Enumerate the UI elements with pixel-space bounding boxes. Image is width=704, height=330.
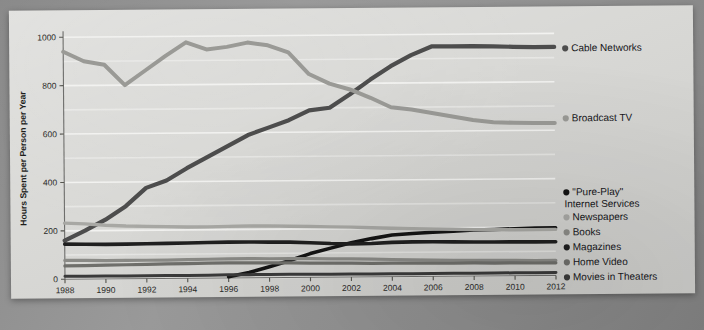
svg-text:2012: 2012	[547, 281, 566, 291]
x-axis: 1988199019921994199619982000200220042006…	[56, 275, 566, 295]
legend-marker	[564, 274, 570, 280]
legend-label: "Pure-Play"	[572, 186, 624, 197]
svg-text:2006: 2006	[424, 282, 443, 292]
series-line	[65, 240, 556, 247]
svg-text:1996: 1996	[219, 284, 238, 294]
svg-text:2000: 2000	[301, 283, 320, 293]
legend-marker	[564, 229, 570, 235]
legend-marker	[564, 244, 570, 250]
svg-text:0: 0	[53, 274, 58, 284]
svg-text:1988: 1988	[56, 285, 75, 295]
svg-text:1994: 1994	[178, 284, 197, 294]
legend-label: Newspapers	[572, 211, 628, 222]
legend-label: Broadcast TV	[572, 112, 633, 123]
svg-text:1992: 1992	[137, 285, 156, 295]
svg-text:1000: 1000	[37, 32, 56, 42]
svg-text:400: 400	[43, 178, 58, 188]
y-axis: 02004006008001000	[37, 31, 65, 284]
legend-marker	[562, 45, 568, 51]
svg-text:Hours Spent per Person per Yea: Hours Spent per Person per Year	[18, 91, 29, 226]
svg-text:1990: 1990	[96, 285, 115, 295]
legend-label: Magazines	[573, 241, 621, 252]
legend-marker	[563, 214, 569, 220]
legend-marker	[563, 115, 569, 121]
svg-text:1998: 1998	[260, 284, 279, 294]
svg-text:2002: 2002	[342, 283, 361, 293]
y-axis-title: Hours Spent per Person per Year	[18, 91, 29, 226]
svg-text:200: 200	[43, 226, 58, 236]
svg-text:800: 800	[42, 81, 57, 91]
legend-marker	[563, 189, 569, 195]
legend-label: Movies in Theaters	[573, 271, 657, 283]
series-lines	[63, 39, 556, 278]
series-line	[65, 219, 556, 233]
legend-label: Internet Services	[564, 198, 639, 210]
legend: Cable NetworksBroadcast TV"Pure-Play"Int…	[562, 42, 657, 283]
chart-card: 02004006008001000 1988199019921994199619…	[9, 5, 695, 298]
svg-text:2004: 2004	[383, 283, 402, 293]
legend-label: Cable Networks	[571, 42, 642, 54]
svg-text:600: 600	[43, 129, 58, 139]
legend-label: Home Video	[573, 256, 628, 267]
legend-marker	[564, 259, 570, 265]
svg-text:2008: 2008	[465, 282, 484, 292]
plot-area: 02004006008001000 1988199019921994199619…	[9, 5, 695, 298]
legend-label: Books	[573, 226, 601, 237]
svg-text:2010: 2010	[506, 282, 525, 292]
line-chart: 02004006008001000 1988199019921994199619…	[9, 5, 695, 298]
